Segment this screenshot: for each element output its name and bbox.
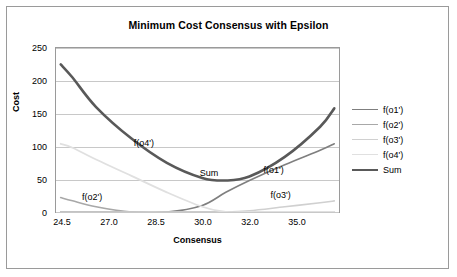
legend-swatch-f-o4 [352,154,378,155]
series-lines [56,48,339,212]
plot-annotation-0: f(o4') [134,138,154,148]
x-tick-3: 30.0 [183,217,223,227]
y-tick-3: 150 [7,109,47,119]
plot-annotation-3: f(o1') [264,165,284,175]
legend-label-f-o3: f(o3') [383,135,403,145]
legend-swatch-f-o3 [352,139,378,140]
legend-label-f-o2: f(o2') [383,120,403,130]
plot-annotation-4: f(o3') [271,190,291,200]
x-tick-4: 32.0 [230,217,270,227]
x-tick-0: 24.5 [42,217,82,227]
chart-title: Minimum Cost Consensus with Epsilon [7,19,450,31]
plot-annotation-1: f(o2') [82,192,102,202]
plot-annotation-2: Sum [200,168,219,178]
legend-label-sum: Sum [383,165,402,175]
y-tick-0: 0 [7,208,47,218]
legend-swatch-sum [352,169,378,171]
y-tick-1: 50 [7,175,47,185]
legend-label-f-o1: f(o1') [383,105,403,115]
x-tick-2: 28.5 [136,217,176,227]
legend-label-f-o4: f(o4') [383,150,403,160]
plot-area: f(o4')f(o2')Sumf(o1')f(o3') [55,47,340,213]
y-tick-4: 200 [7,76,47,86]
legend-swatch-f-o1 [352,109,378,110]
legend-item-f-o2: f(o2') [352,117,444,132]
x-tick-1: 27.0 [89,217,129,227]
x-axis-label: Consensus [55,235,340,245]
x-tick-5: 35.0 [277,217,317,227]
legend: f(o1') f(o2') f(o3') f(o4') Sum [352,102,444,177]
legend-item-f-o1: f(o1') [352,102,444,117]
legend-item-f-o3: f(o3') [352,132,444,147]
gridline-0 [56,212,339,213]
legend-item-f-o4: f(o4') [352,147,444,162]
series-line-3 [61,144,335,212]
chart-container: Minimum Cost Consensus with Epsilon Cost… [0,0,457,277]
y-tick-5: 250 [7,43,47,53]
chart-frame: Minimum Cost Consensus with Epsilon Cost… [6,6,449,269]
legend-item-sum: Sum [352,162,444,177]
legend-swatch-f-o2 [352,124,378,125]
series-line-0 [61,144,335,212]
y-tick-2: 100 [7,142,47,152]
